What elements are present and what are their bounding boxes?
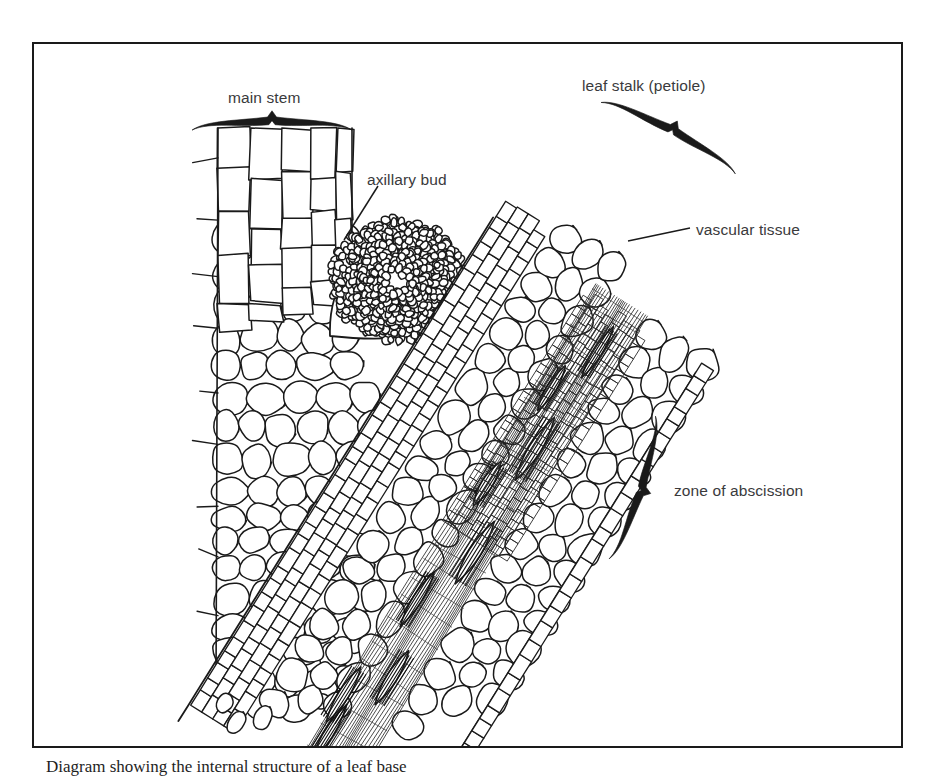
label-main-stem: main stem (228, 90, 300, 106)
tissue-plate (0, 0, 938, 778)
label-axillary-bud: axillary bud (367, 172, 447, 188)
figure-root: main stem axillary bud leaf stalk (petio… (0, 0, 938, 778)
label-vascular-tissue: vascular tissue (696, 222, 800, 238)
figure-caption: Diagram showing the internal structure o… (46, 757, 906, 777)
brace-leaf-stalk (601, 85, 744, 173)
label-leaf-stalk: leaf stalk (petiole) (582, 78, 705, 94)
leader-vascular-tissue (628, 228, 690, 241)
label-zone-of-abscission: zone of abscission (674, 483, 803, 499)
